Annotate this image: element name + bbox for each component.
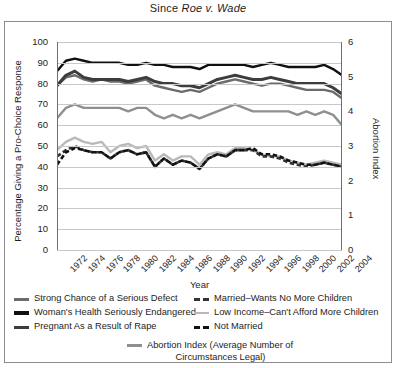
legend: Strong Chance of a Serious DefectWoman's… bbox=[14, 292, 384, 363]
y-axis-left-tick-label: 50 bbox=[24, 141, 48, 151]
legend-swatch bbox=[14, 326, 29, 329]
legend-swatch-abortion-index bbox=[127, 344, 142, 347]
gridline bbox=[57, 42, 342, 43]
series-line bbox=[57, 59, 342, 76]
y-axis-right-tick-label: 1 bbox=[348, 210, 372, 220]
legend-swatch bbox=[194, 298, 209, 301]
y-axis-right-tick-label: 0 bbox=[348, 245, 372, 255]
legend-item: Married–Wants No More Children bbox=[194, 292, 384, 306]
x-axis-tick-label: 1996 bbox=[282, 253, 303, 274]
x-axis-tick-label: 2004 bbox=[353, 253, 374, 274]
legend-label: Married–Wants No More Children bbox=[214, 294, 352, 303]
gridline bbox=[57, 146, 342, 147]
legend-item: Pregnant As a Result of Rape bbox=[14, 320, 194, 334]
x-axis-tick-label: 2000 bbox=[317, 253, 338, 274]
legend-label: Woman's Health Seriously Endangered bbox=[34, 308, 196, 317]
gridline bbox=[57, 250, 342, 251]
legend-item: Strong Chance of a Serious Defect bbox=[14, 292, 194, 306]
legend-item: Woman's Health Seriously Endangered bbox=[14, 306, 194, 320]
y-axis-left-tick-label: 40 bbox=[24, 162, 48, 172]
x-axis-tick-label: 1982 bbox=[157, 253, 178, 274]
y-axis-left-tick-label: 100 bbox=[24, 37, 48, 47]
x-axis-tick-label: 1994 bbox=[264, 253, 285, 274]
legend-label: Low Income–Can't Afford More Children bbox=[214, 308, 378, 317]
legend-swatch bbox=[14, 311, 29, 315]
legend-label-abortion-index-line2: Circumstances Legal) bbox=[147, 351, 294, 363]
gridline bbox=[57, 208, 342, 209]
y-axis-right-tick-label: 2 bbox=[348, 176, 372, 186]
legend-label: Not Married bbox=[214, 322, 263, 331]
y-axis-left-tick-label: 80 bbox=[24, 79, 48, 89]
y-axis-right-tick-label: 3 bbox=[348, 141, 372, 151]
y-axis-right-title: Abortion Index bbox=[371, 118, 382, 179]
y-axis-left-tick-label: 20 bbox=[24, 203, 48, 213]
y-axis-left-title-text: Percentage Giving a Pro-Choice Response bbox=[12, 56, 23, 246]
legend-swatch bbox=[194, 326, 209, 329]
series-line bbox=[57, 71, 342, 94]
legend-label: Pregnant As a Result of Rape bbox=[34, 322, 157, 331]
gridline bbox=[57, 84, 342, 85]
series-line bbox=[57, 104, 342, 125]
y-axis-left-title: Percentage Giving a Pro-Choice Response bbox=[0, 0, 9, 56]
x-axis-title: Year bbox=[57, 279, 342, 290]
legend-column-right: Married–Wants No More ChildrenLow Income… bbox=[194, 292, 384, 334]
y-axis-left-tick-label: 70 bbox=[24, 99, 48, 109]
x-axis-tick-label: 1980 bbox=[139, 253, 160, 274]
y-axis-right-tick-label: 4 bbox=[348, 106, 372, 116]
y-axis-right-line bbox=[341, 42, 342, 250]
y-axis-left-tick-label: 60 bbox=[24, 120, 48, 130]
legend-column-left: Strong Chance of a Serious DefectWoman's… bbox=[14, 292, 194, 334]
legend-label-abortion-index-line1: Abortion Index (Average Number of bbox=[147, 340, 293, 350]
x-axis-tick-label: 1976 bbox=[103, 253, 124, 274]
legend-item: Not Married bbox=[194, 320, 384, 334]
legend-swatch bbox=[14, 298, 29, 301]
gridline bbox=[57, 104, 342, 105]
gridline bbox=[57, 188, 342, 189]
legend-label: Strong Chance of a Serious Defect bbox=[34, 294, 178, 303]
x-axis-tick-label: 1998 bbox=[299, 253, 320, 274]
y-axis-left-tick-label: 90 bbox=[24, 58, 48, 68]
x-axis-tick-label: 1978 bbox=[121, 253, 142, 274]
x-axis-tick-label: 1992 bbox=[246, 253, 267, 274]
x-axis-tick-label: 1974 bbox=[86, 253, 107, 274]
plot-area bbox=[57, 42, 342, 250]
y-axis-right-tick-label: 6 bbox=[348, 37, 372, 47]
y-axis-left-tick-label: 30 bbox=[24, 183, 48, 193]
x-axis-tick-label: 1990 bbox=[228, 253, 249, 274]
legend-swatch bbox=[194, 312, 209, 315]
gridline bbox=[57, 167, 342, 168]
y-axis-left-tick-label: 0 bbox=[24, 245, 48, 255]
legend-item: Low Income–Can't Afford More Children bbox=[194, 306, 384, 320]
legend-label-abortion-index: Abortion Index (Average Number of Circum… bbox=[147, 339, 307, 363]
x-axis-tick-label: 1984 bbox=[175, 253, 196, 274]
x-axis-tick-label: 1988 bbox=[210, 253, 231, 274]
x-axis-tick-label: 1986 bbox=[193, 253, 214, 274]
gridline bbox=[57, 63, 342, 64]
x-axis-tick-label: 1972 bbox=[68, 253, 89, 274]
gridline bbox=[57, 125, 342, 126]
y-axis-left-tick-label: 10 bbox=[24, 224, 48, 234]
y-axis-left-line bbox=[57, 42, 58, 250]
legend-item-abortion-index: Abortion Index (Average Number of Circum… bbox=[14, 339, 384, 363]
gridline bbox=[57, 229, 342, 230]
x-axis-tick-label: 2002 bbox=[335, 253, 356, 274]
y-axis-right-tick-label: 5 bbox=[348, 72, 372, 82]
